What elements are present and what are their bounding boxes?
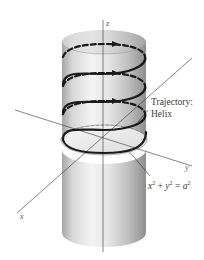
helix-diagram-svg (0, 0, 204, 260)
z-axis-label: z (106, 20, 109, 28)
x-axis-label: x (20, 213, 24, 221)
y-axis-label: y (185, 164, 189, 172)
lower-cylinder (62, 150, 146, 247)
eq-a-exp: 2 (187, 180, 190, 186)
trajectory-label-line2: Helix (151, 110, 193, 120)
eq-plus: + (155, 181, 165, 191)
trajectory-label: Trajectory: Helix (151, 98, 193, 119)
trajectory-label-line1: Trajectory: (151, 98, 193, 108)
eq-equals: = (173, 181, 183, 191)
helix-diagram: z y x Trajectory: Helix x2 + y2 = a2 (0, 0, 204, 260)
cylinder-equation: x2 + y2 = a2 (148, 180, 190, 192)
